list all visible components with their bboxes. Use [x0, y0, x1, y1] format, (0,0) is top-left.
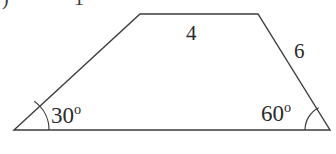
left-base-angle-value: 30: [51, 103, 74, 128]
left-base-angle-label: 30o: [51, 104, 81, 127]
left-base-angle-degree-symbol: o: [74, 101, 81, 117]
angle-arc-right: [305, 108, 319, 130]
right-base-angle-degree-symbol: o: [284, 99, 291, 115]
top-side-length-label: 4: [186, 23, 197, 44]
trapezoid-drawing: [0, 0, 336, 154]
right-base-angle-label: 60o: [261, 102, 291, 125]
right-base-angle-value: 60: [261, 101, 284, 126]
right-side-length-label: 6: [294, 41, 305, 62]
geometry-figure: ) 1 4 6 30o 60o: [0, 0, 336, 154]
